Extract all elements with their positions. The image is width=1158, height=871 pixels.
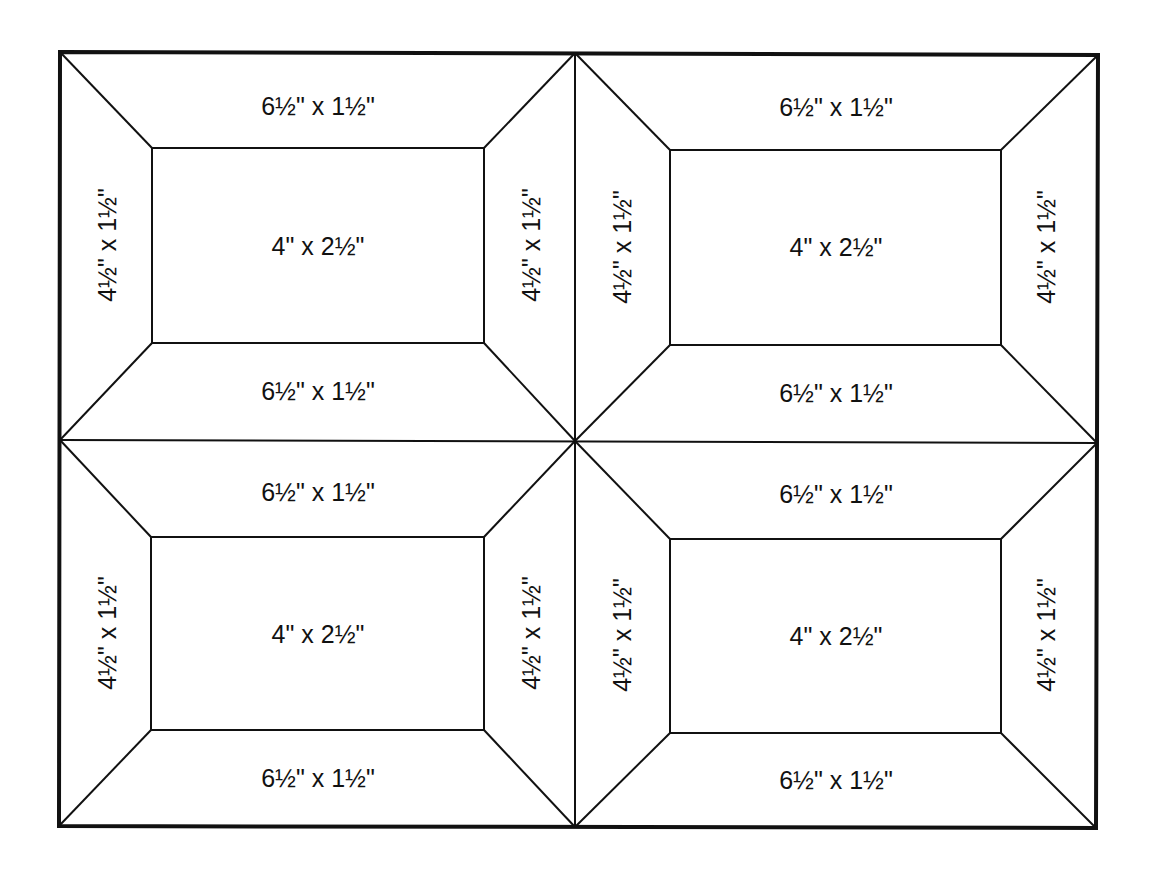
right-strip-label: 4½" x 1½"	[517, 576, 545, 690]
left-strip-label: 4½" x 1½"	[93, 576, 121, 690]
bottom-strip-label: 6½" x 1½"	[261, 764, 375, 792]
bottom-strip-label: 6½" x 1½"	[261, 377, 375, 405]
horizontal-divider	[60, 440, 1097, 443]
center-label: 4" x 2½"	[790, 622, 883, 650]
right-strip-label: 4½" x 1½"	[517, 188, 545, 302]
top-strip-label: 6½" x 1½"	[779, 480, 893, 508]
quilt-diagram: 6½" x 1½" 4" x 2½" 6½" x 1½" 4½" x 1½" 4…	[0, 0, 1158, 871]
center-label: 4" x 2½"	[272, 232, 365, 260]
center-label: 4" x 2½"	[790, 233, 883, 261]
bottom-strip-label: 6½" x 1½"	[779, 766, 893, 794]
bottom-strip-label: 6½" x 1½"	[779, 379, 893, 407]
center-label: 4" x 2½"	[272, 620, 365, 648]
right-strip-label: 4½" x 1½"	[1032, 190, 1060, 304]
left-strip-label: 4½" x 1½"	[93, 188, 121, 302]
left-strip-label: 4½" x 1½"	[608, 578, 636, 692]
top-strip-label: 6½" x 1½"	[261, 92, 375, 120]
top-strip-label: 6½" x 1½"	[779, 93, 893, 121]
left-strip-label: 4½" x 1½"	[608, 190, 636, 304]
top-strip-label: 6½" x 1½"	[261, 478, 375, 506]
right-strip-label: 4½" x 1½"	[1032, 578, 1060, 692]
